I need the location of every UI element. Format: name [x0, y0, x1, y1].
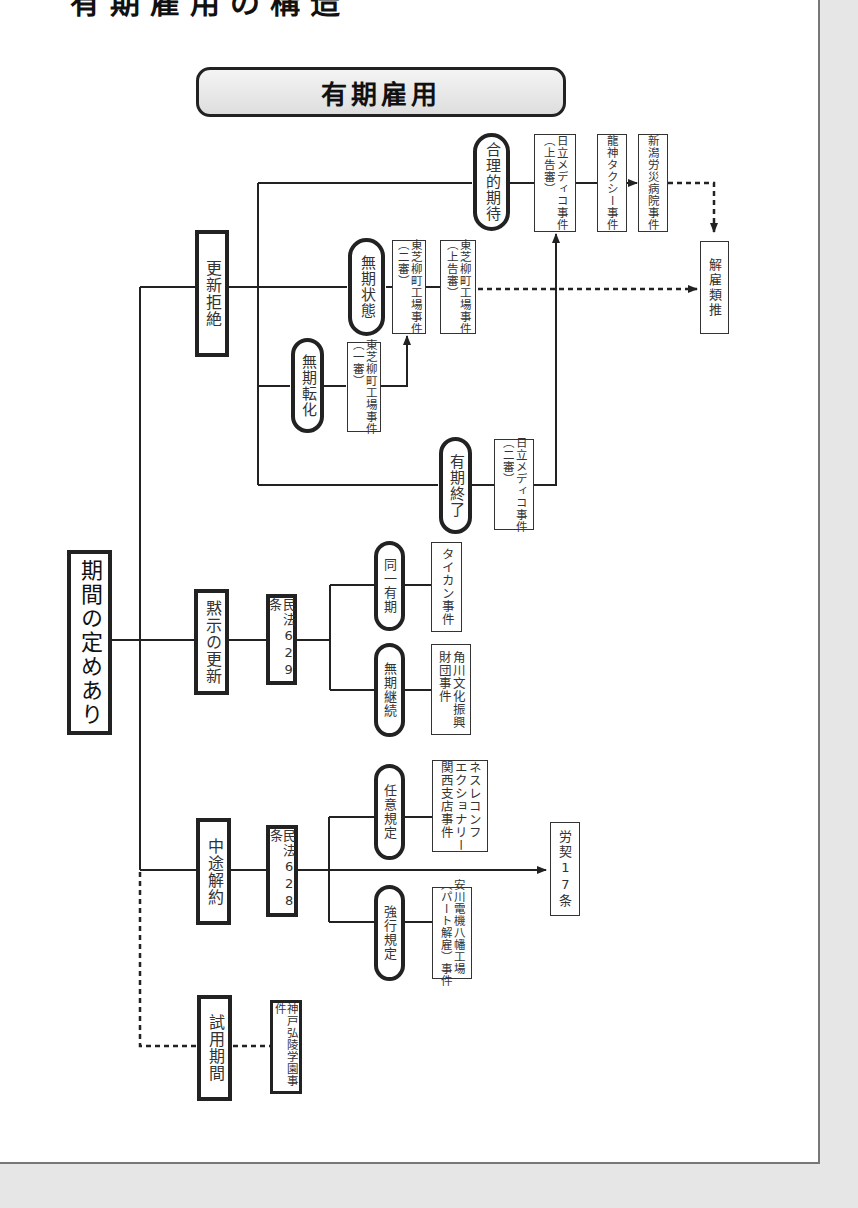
- edge-niigata-analogy: [668, 183, 714, 232]
- category-renewal-refusal: 更新拒絶: [195, 230, 229, 357]
- case-toshiba-yanagimachi-1st: 東芝柳町工場事件 （一審）: [347, 342, 381, 432]
- condition-indefinite-continuation: 無期継続: [374, 643, 405, 737]
- case-kobe-koryo-gakuen: 神戸弘陵学園事件: [270, 1000, 302, 1094]
- law-labor-contract-17: 労契17条: [550, 822, 580, 916]
- category-trial: 試用期間: [197, 995, 232, 1101]
- edge-trunk-trial: [140, 872, 197, 1046]
- condition-reasonable-expectation: 合理的期待: [473, 133, 510, 231]
- condition-mandatory-rule: 強行規定: [374, 885, 405, 981]
- case-hitachi-medico-appeal: 日立メディコ事件 （上告審）: [534, 134, 576, 232]
- connector-lines: [0, 0, 858, 1208]
- condition-indefinite-state: 無期状態: [348, 238, 385, 336]
- case-hitachi-medico-2nd: 日立メディコ事件 （二審）: [494, 439, 534, 530]
- case-yasukawa-denki: 安川電機八幡工場 （パート解雇）事件: [432, 887, 472, 979]
- law-civil-628: 民法628条: [266, 825, 298, 917]
- case-niigata-rosai-hospital: 新潟労災病院事件: [638, 134, 668, 232]
- case-toshiba-yanagimachi-2nd: 東芝柳町工場事件 （二審）: [392, 240, 426, 334]
- edge-hitachi2-up: [534, 234, 556, 485]
- case-nestle-confectionery: ネスレコンフ エクショナリー 関西支店事件: [432, 760, 488, 852]
- root-node: 期間の定めあり: [67, 550, 112, 735]
- case-kadokawa-foundation: 角川文化振興 財団事件: [431, 644, 471, 735]
- edge-toshiba1-up: [381, 336, 407, 386]
- law-civil-629: 民法629条: [266, 594, 297, 685]
- condition-optional-rule: 任意規定: [374, 764, 405, 860]
- case-toshiba-yanagimachi-appeal: 東芝柳町工場事件 （上告審）: [440, 240, 476, 334]
- condition-same-term: 同一有期: [374, 541, 405, 631]
- category-mid-term: 中途解約: [196, 818, 231, 925]
- category-implied-renewal: 黙示の更新: [194, 589, 229, 695]
- result-dismissal-analogy: 解雇類推: [700, 241, 729, 334]
- condition-term-end: 有期終了: [439, 437, 472, 534]
- case-taikan: タイカン事件: [431, 542, 462, 632]
- case-ryujin-taxi: 龍神タクシー事件: [597, 134, 627, 232]
- condition-indefinite-conversion: 無期転化: [291, 338, 324, 433]
